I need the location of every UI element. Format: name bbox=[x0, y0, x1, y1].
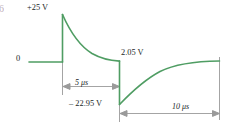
waveform-trace bbox=[29, 15, 220, 105]
arrow-left-10us bbox=[120, 111, 127, 117]
label-decay-end-voltage: 2.05 V bbox=[121, 49, 144, 57]
arrow-left-5us bbox=[63, 84, 70, 90]
label-first-interval: 5 μs bbox=[75, 79, 88, 87]
arrow-right-10us bbox=[213, 111, 220, 117]
dimension-lines bbox=[63, 57, 220, 122]
label-zero-level: 0 bbox=[16, 55, 20, 63]
label-peak-voltage: +25 V bbox=[27, 4, 48, 12]
label-trough-voltage: – 22.95 V bbox=[69, 100, 102, 108]
trace-decay bbox=[63, 15, 120, 62]
trace-recovery bbox=[120, 61, 220, 105]
arrow-right-5us bbox=[113, 84, 120, 90]
waveform-canvas bbox=[0, 0, 252, 134]
label-second-interval: 10 μs bbox=[172, 103, 189, 111]
